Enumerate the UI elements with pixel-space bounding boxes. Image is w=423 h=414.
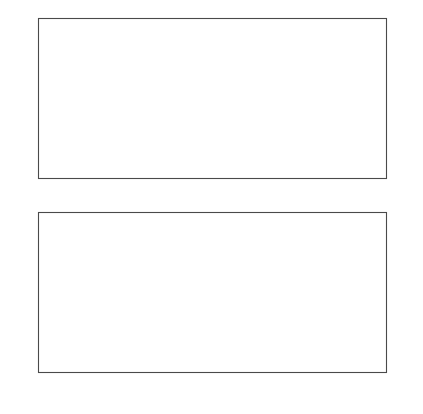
bottom-chart-svg (0, 200, 423, 414)
top-chart-svg (0, 0, 423, 207)
bottom-chart-canvas (0, 200, 423, 414)
top-chart-canvas (0, 0, 423, 207)
chart-panel-efficiency (0, 200, 423, 414)
top-chart-background (0, 0, 423, 207)
chart-panel-capital-ratio (0, 0, 423, 207)
bottom-chart-background (0, 200, 423, 414)
